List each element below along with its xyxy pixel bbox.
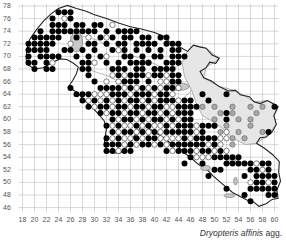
record-dot-filled (74, 91, 80, 97)
record-dot-filled (146, 123, 152, 129)
record-dot-gray (260, 129, 265, 134)
record-dot-filled (122, 129, 128, 135)
record-dot-filled (176, 148, 182, 154)
record-dot-filled (110, 116, 116, 122)
record-dot-filled (134, 110, 140, 116)
record-dot-open (170, 148, 175, 153)
record-dot-filled (170, 66, 176, 72)
record-dot-filled (98, 104, 104, 110)
record-dot-filled (140, 129, 146, 135)
record-dot-gray (248, 117, 253, 122)
record-dot-filled (188, 98, 194, 104)
record-dot-filled (128, 142, 134, 148)
record-dot-open (92, 104, 97, 109)
record-dot-open (152, 92, 157, 97)
record-dot-open (128, 92, 133, 97)
record-dot-filled (182, 110, 188, 116)
record-dot-open (50, 60, 55, 65)
record-dot-open (98, 98, 103, 103)
record-dot-open (158, 110, 163, 115)
record-dot-filled (182, 142, 188, 148)
record-dot-filled (38, 53, 44, 59)
record-dot-filled (122, 53, 128, 59)
record-dot-filled (158, 116, 164, 122)
record-dot-filled (152, 129, 158, 135)
record-dot-filled (116, 123, 122, 129)
record-dot-open (116, 148, 121, 153)
record-dot-filled (230, 154, 236, 160)
record-dot-filled (50, 66, 56, 72)
record-dot-open (68, 41, 73, 46)
record-dot-open (260, 167, 265, 172)
record-dot-filled (170, 41, 176, 47)
record-dot-filled (254, 179, 260, 185)
record-dot-open (116, 117, 121, 122)
record-dot-open (128, 104, 133, 109)
record-dot-filled (44, 53, 50, 59)
record-dot-filled (146, 60, 152, 66)
record-dot-filled (80, 22, 86, 28)
record-dot-filled (188, 110, 194, 116)
record-dot-filled (272, 179, 278, 185)
record-dot-filled (152, 110, 158, 116)
record-dot-filled (128, 79, 134, 85)
record-dot-gray (230, 136, 235, 141)
record-dot-filled (92, 98, 98, 104)
record-dot-filled (122, 116, 128, 122)
record-dot-filled (104, 41, 110, 47)
record-dot-filled (56, 22, 62, 28)
record-dot-filled (248, 186, 254, 192)
record-dot-filled (116, 104, 122, 110)
record-dot-open (158, 79, 163, 84)
record-dot-gray (230, 104, 235, 109)
record-dot-filled (86, 53, 92, 59)
record-dot-filled (80, 66, 86, 72)
record-dot-filled (56, 35, 62, 41)
record-dot-open (104, 79, 109, 84)
record-dot-open (224, 136, 229, 141)
record-dot-gray (200, 104, 205, 109)
species-suffix: agg. (263, 228, 282, 238)
record-dot-filled (176, 72, 182, 78)
record-dot-open (200, 155, 205, 160)
record-dot-filled (188, 154, 194, 160)
record-dot-filled (182, 104, 188, 110)
record-dot-filled (110, 142, 116, 148)
record-dot-filled (176, 60, 182, 66)
record-dot-open (116, 79, 121, 84)
record-dot-filled (188, 116, 194, 122)
record-dot-filled (32, 66, 38, 72)
record-dot-open (134, 117, 139, 122)
record-dot-filled (128, 72, 134, 78)
record-dot-filled (122, 66, 128, 72)
record-dot-gray (248, 123, 253, 128)
record-dot-open (122, 123, 127, 128)
record-dot-filled (170, 142, 176, 148)
record-dot-filled (104, 123, 110, 129)
species-caption: Dryopteris affinis agg. (200, 228, 282, 238)
record-dot-filled (128, 35, 134, 41)
record-dot-filled (218, 148, 224, 154)
record-dot-filled (176, 123, 182, 129)
record-dot-open (164, 104, 169, 109)
record-dot-filled (62, 9, 68, 15)
record-dot-filled (50, 35, 56, 41)
record-dot-filled (122, 79, 128, 85)
record-dot-filled (152, 85, 158, 91)
record-dot-filled (164, 91, 170, 97)
record-dot-filled (62, 22, 68, 28)
record-dot-filled (266, 173, 272, 179)
y-axis-label: 66 (3, 78, 17, 86)
record-dot-filled (140, 66, 146, 72)
record-dot-filled (224, 110, 230, 116)
record-dot-filled (224, 161, 230, 167)
y-axis-label: 68 (3, 65, 17, 73)
record-dot-filled (62, 28, 68, 34)
record-dot-gray (218, 110, 223, 115)
record-dot-filled (140, 72, 146, 78)
record-dot-filled (110, 35, 116, 41)
record-dot-filled (164, 41, 170, 47)
record-dot-filled (176, 104, 182, 110)
record-dot-filled (188, 123, 194, 129)
record-dot-filled (248, 198, 254, 204)
